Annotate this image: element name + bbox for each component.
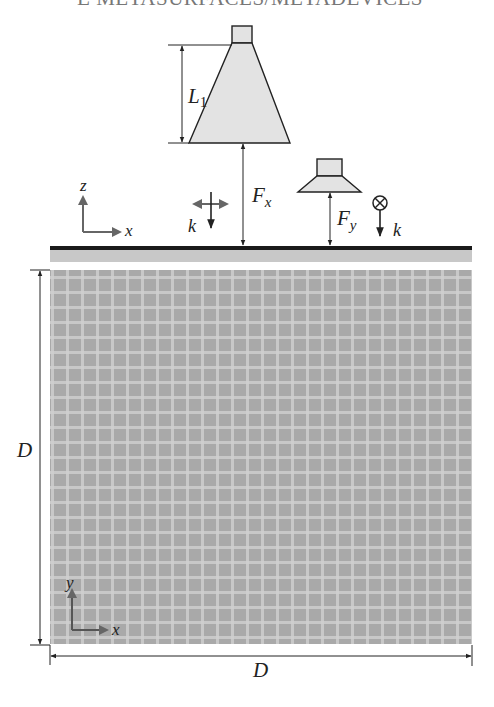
svg-text:k: k — [393, 220, 402, 240]
dimension-left: D — [16, 270, 50, 645]
large-horn-antenna — [189, 26, 290, 143]
svg-text:x: x — [124, 221, 133, 240]
svg-text:Fx: Fx — [251, 183, 272, 210]
dimension-bottom: D — [50, 645, 472, 682]
metasurface-diagram: L1 Fx Fy z x k k — [0, 0, 494, 707]
svg-text:x: x — [111, 620, 120, 639]
focal-distance-y: Fy — [330, 193, 357, 245]
svg-text:y: y — [64, 573, 74, 592]
svg-text:D: D — [252, 658, 268, 682]
svg-text:D: D — [16, 438, 32, 462]
svg-text:k: k — [188, 216, 197, 236]
svg-text:Fy: Fy — [336, 206, 357, 233]
x-polarization-icon: k — [188, 192, 227, 236]
metasurface-top-view — [50, 270, 472, 644]
horn-length-label: L1 — [187, 84, 207, 110]
svg-text:z: z — [79, 176, 87, 195]
side-view-axes: z x — [79, 176, 133, 240]
metasurface-cross-section — [50, 246, 472, 262]
focal-distance-x: Fx — [243, 144, 272, 245]
small-horn-antenna — [298, 159, 361, 192]
y-polarization-icon: k — [373, 196, 402, 240]
